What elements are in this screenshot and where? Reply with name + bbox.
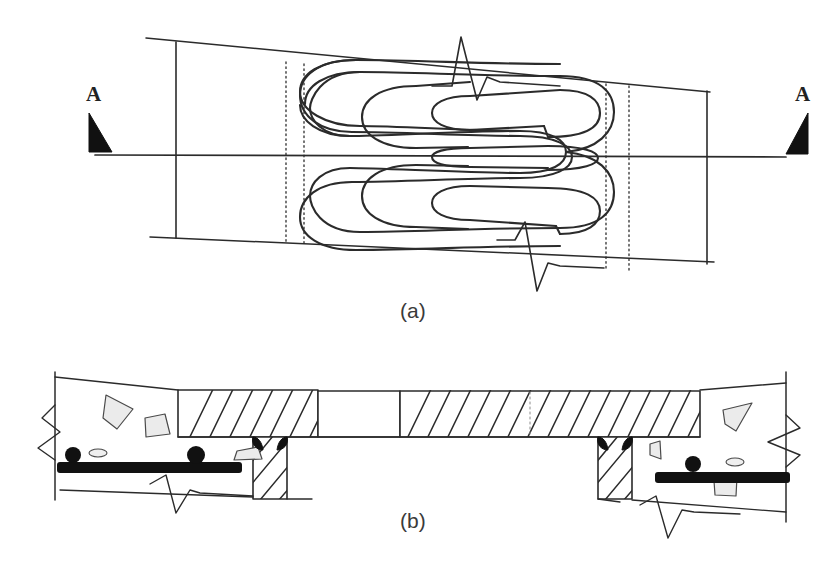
rebar-section-dot [685,456,701,472]
panel-b-caption: (b) [400,509,426,533]
plate-gap [318,391,400,437]
aggregate-void-left [89,449,107,457]
rebar-section-dot [187,446,205,464]
longitudinal-rebar-left [57,462,242,473]
steel-plate-left [178,390,318,437]
section-label-right: A [795,82,810,107]
panel-a-caption: (a) [400,299,426,323]
panel-b-drawing [0,0,835,562]
concrete-top-right [700,383,786,390]
aggregate-chip [723,403,752,431]
aggregate-void-right [726,458,744,466]
longitudinal-rebar-right [655,472,790,483]
aggregate-chip [103,395,133,429]
figure-root: A A (a) (b) [0,0,835,562]
aggregate-chip [650,441,661,459]
section-label-left: A [86,82,101,107]
concrete-lower-line-left [60,490,253,497]
concrete-top-left [55,377,178,390]
aggregate-chip [145,414,170,437]
break-left-edge [38,405,60,460]
concrete-lower-line-right [632,500,786,512]
rebar-section-dot [65,447,81,463]
break-right-edge [768,415,800,467]
steel-plate-right [400,391,700,437]
